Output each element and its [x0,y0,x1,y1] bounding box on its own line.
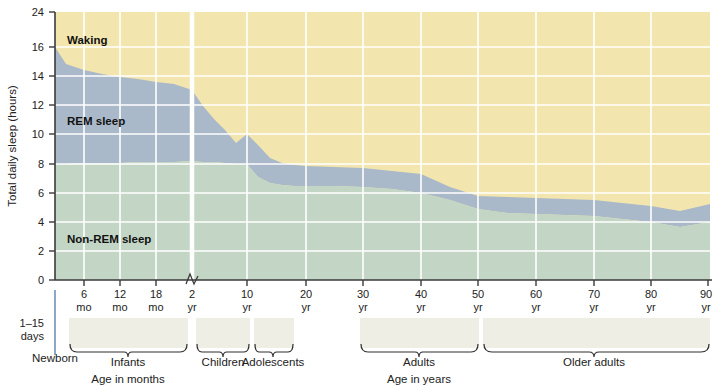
x-tick-value: 50 [472,288,484,300]
age-band-children [196,318,250,348]
x-tick-unit: yr [701,301,711,313]
y-tick-label: 2 [38,245,44,257]
y-tick-label: 14 [32,70,44,82]
x-tick-unit: mo [112,301,127,313]
y-tick-label: 10 [32,128,44,140]
y-tick-label: 24 [32,6,44,18]
y-tick-label: 12 [32,99,44,111]
y-tick-label: 6 [38,187,44,199]
area-label-rem-sleep: REM sleep [67,115,125,127]
x-axis-title-months: Age in months [91,373,165,385]
age-band-infants [69,318,188,348]
group-label-infants: Infants [111,356,146,368]
plot-area [55,12,710,280]
y-tick-label: 16 [32,41,44,53]
x-tick-unit: mo [76,301,91,313]
age-band-adults [360,318,479,348]
newborn-unit: days [21,330,45,342]
age-band-older-adults [483,318,710,348]
x-tick-value: 6 [81,288,87,300]
x-tick-value: 20 [300,288,312,300]
sleep-stages-across-lifespan-chart: 24 16 14 12 10 8 6 4 2 0 Total daily sle… [0,0,714,386]
x-tick-unit: yr [301,301,311,313]
x-tick-value: 12 [114,288,126,300]
group-label-adolescents: Adolescents [242,356,305,368]
x-tick-unit: mo [148,301,163,313]
x-tick-value: 18 [150,288,162,300]
x-tick-value: 40 [415,288,427,300]
x-tick-value: 70 [588,288,600,300]
x-tick-value: 90 [700,288,712,300]
group-label-children: Children [202,356,245,368]
area-label-waking: Waking [67,34,107,46]
y-axis-title: Total daily sleep (hours) [6,85,18,207]
x-tick-unit: yr [589,301,599,313]
y-tick-label: 4 [38,216,44,228]
newborn-range: 1–15 [20,317,44,329]
y-tick-label: 8 [38,158,44,170]
y-tick-label: 0 [38,274,44,286]
x-tick-value: 10 [241,288,253,300]
age-band-adolescents [254,318,294,348]
age-group-bands [69,318,710,348]
x-tick-unit: yr [473,301,483,313]
x-tick-unit: yr [646,301,656,313]
x-tick-value: 80 [645,288,657,300]
group-label-newborn: Newborn [32,352,78,364]
x-tick-unit: yr [187,301,197,313]
x-tick-unit: yr [358,301,368,313]
area-label-non-rem-sleep: Non-REM sleep [67,233,151,245]
x-tick-value: 2 [189,288,195,300]
x-tick-value: 30 [357,288,369,300]
x-tick-unit: yr [531,301,541,313]
group-label-older-adults: Older adults [563,356,625,368]
x-tick-unit: yr [416,301,426,313]
x-axis-title-years: Age in years [387,373,451,385]
x-tick-value: 60 [530,288,542,300]
x-tick-unit: yr [242,301,252,313]
group-label-adults: Adults [403,356,435,368]
